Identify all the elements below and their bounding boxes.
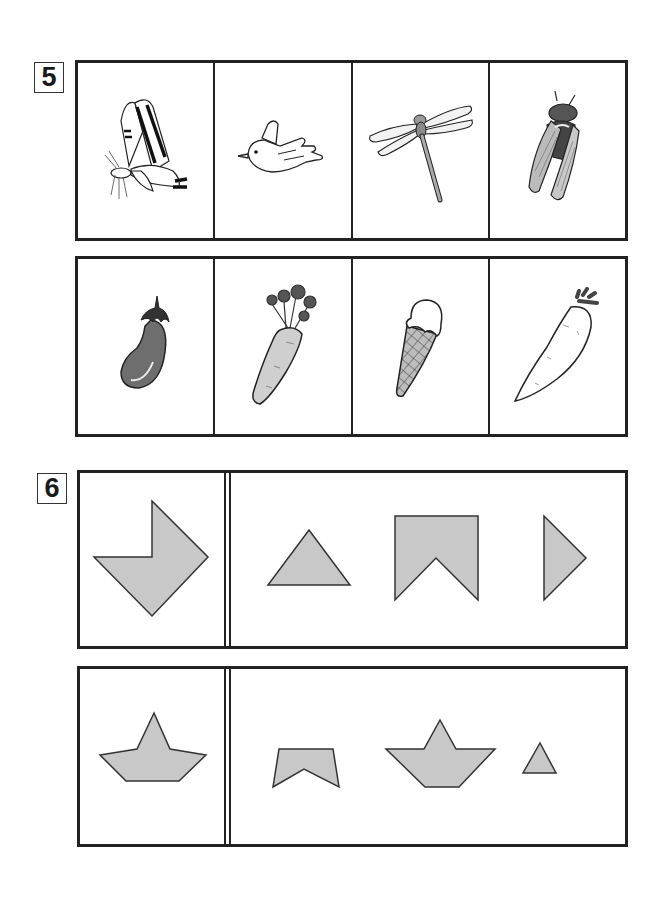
ice-cream-icon	[385, 292, 455, 402]
choice-boat-star[interactable]	[386, 720, 495, 787]
target-shape-arrow-notch	[80, 473, 224, 646]
q6-row-2	[77, 666, 628, 847]
choice-triangle[interactable]	[268, 530, 350, 585]
eggplant-icon	[111, 292, 181, 402]
choices-cell	[231, 669, 625, 844]
choice-notched-rectangle[interactable]	[395, 516, 478, 600]
choice-right-half-triangle[interactable]	[544, 516, 586, 600]
option-eggplant[interactable]	[78, 259, 215, 434]
target-shape-boat-star	[80, 669, 224, 844]
choices-cell	[231, 473, 625, 646]
dragonfly-icon	[360, 96, 480, 206]
option-dragonfly[interactable]	[353, 63, 490, 238]
bird-icon	[228, 116, 338, 186]
q5-row-animals	[75, 60, 628, 241]
option-carrot[interactable]	[215, 259, 352, 434]
option-butterfly[interactable]	[78, 63, 215, 238]
choice-small-triangle[interactable]	[523, 743, 556, 773]
daikon-icon	[507, 287, 607, 407]
option-daikon[interactable]	[490, 259, 625, 434]
question-number-6: 6	[37, 473, 67, 504]
question-number-label: 6	[44, 473, 59, 504]
option-bird[interactable]	[215, 63, 352, 238]
cicada-icon	[517, 91, 597, 211]
q6-row-1	[77, 470, 628, 649]
option-cicada[interactable]	[490, 63, 625, 238]
question-number-label: 5	[41, 62, 56, 93]
question-number-5: 5	[34, 62, 64, 93]
target-shape-cell	[80, 669, 226, 844]
butterfly-icon	[91, 91, 201, 211]
choice-notched-trapezoid[interactable]	[273, 749, 339, 787]
carrot-icon	[238, 282, 328, 412]
target-shape-cell	[80, 473, 226, 646]
option-ice-cream[interactable]	[353, 259, 490, 434]
q5-row-foods	[75, 256, 628, 437]
